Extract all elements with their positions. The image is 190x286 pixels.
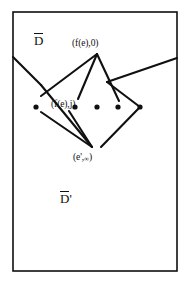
vertex-label-bottom: (e',∞) xyxy=(73,153,92,163)
dot-1 xyxy=(33,104,38,109)
vertex-label-bottom-base: (e' xyxy=(73,152,82,162)
edge-dot5-to-bottom-vertex xyxy=(101,107,140,147)
vertex-dots-group xyxy=(33,104,142,109)
dot-3 xyxy=(94,104,99,109)
edge-apex-to-rightdown xyxy=(97,54,119,101)
vertex-label-middle: (f(e),j) xyxy=(51,100,75,110)
dot-5 xyxy=(137,104,142,109)
edges-group xyxy=(13,54,177,147)
edge-left-border-to-bend xyxy=(13,57,41,85)
edge-right-border-to-bend xyxy=(107,58,177,82)
dot-4 xyxy=(115,104,120,109)
region-label-lower-text: D xyxy=(60,191,70,205)
figure-page: D D' (f(e),0) (f(e),j) (e',∞) xyxy=(0,0,190,286)
edge-mid-to-bottom-vertex xyxy=(69,111,92,147)
region-label-lower: D' xyxy=(60,191,72,205)
vertex-label-bottom-close: ) xyxy=(89,152,92,162)
region-label-upper: D xyxy=(34,33,44,47)
region-label-lower-prime: ' xyxy=(70,191,72,206)
figure-border-rectangle xyxy=(13,12,177,271)
region-label-upper-text: D xyxy=(34,33,44,47)
vertex-label-top: (f(e),0) xyxy=(72,39,98,49)
